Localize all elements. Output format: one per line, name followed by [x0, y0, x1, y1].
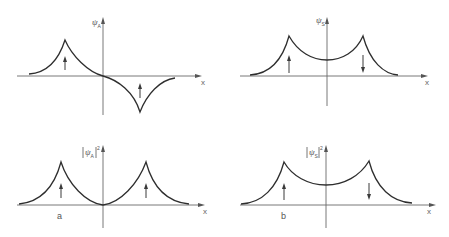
y-axis-label: ψS 2 — [307, 145, 323, 159]
y-axis-arrow-icon — [101, 145, 105, 152]
spin-up-arrow-icon — [63, 56, 67, 62]
x-axis-label: x — [201, 78, 205, 87]
panel-label: a — [57, 211, 62, 221]
x-axis-label: x — [427, 207, 431, 216]
x-axis-label: x — [203, 207, 207, 216]
y-axis-label: ψA — [92, 17, 102, 29]
svg-text:ψS: ψS — [309, 147, 319, 159]
panel-psi-s-squared: ψS 2 x b — [240, 145, 436, 228]
spin-up-arrow-icon — [144, 183, 148, 189]
y-axis-label: ψS — [316, 15, 326, 27]
psi-s-squared-curve — [241, 161, 412, 204]
spin-down-arrow-icon — [361, 67, 365, 73]
psi-s-curve — [250, 36, 398, 75]
svg-text:ψA: ψA — [85, 147, 95, 159]
x-axis-label: x — [425, 78, 429, 87]
y-axis-arrow-icon — [325, 17, 329, 24]
wavefunction-figure: ψA x ψS x ψA 2 x — [0, 0, 449, 237]
spin-up-arrow-icon — [138, 83, 142, 89]
panel-psi-s: ψS x — [240, 15, 429, 106]
spin-up-arrow-icon — [287, 55, 291, 61]
spin-up-arrow-icon — [282, 183, 286, 189]
y-axis-label: ψA 2 — [83, 145, 100, 159]
spin-down-arrow-icon — [367, 194, 371, 200]
panel-label: b — [281, 211, 286, 221]
y-axis-arrow-icon — [324, 145, 328, 152]
svg-text:2: 2 — [97, 145, 100, 151]
y-axis-arrow-icon — [101, 17, 105, 24]
panel-psi-a-squared: ψA 2 x a — [17, 145, 207, 228]
svg-text:2: 2 — [320, 145, 323, 151]
psi-a-squared-curve — [19, 162, 189, 205]
spin-up-arrow-icon — [59, 183, 63, 189]
panel-psi-a: ψA x — [17, 17, 205, 115]
